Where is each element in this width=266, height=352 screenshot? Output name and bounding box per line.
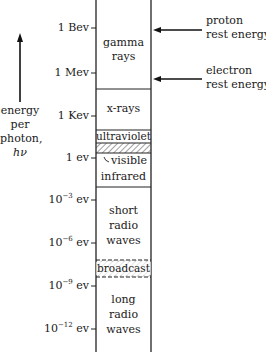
tick-1bev: 1 Bev bbox=[58, 21, 89, 34]
tick-1e-12: 10−12 ev bbox=[44, 322, 89, 335]
tick-1ev: 1 ev bbox=[66, 151, 89, 164]
annotation-line: rest energy bbox=[206, 78, 266, 92]
axis-label-line: per bbox=[0, 118, 40, 132]
band-label: waves bbox=[96, 322, 151, 337]
band-label: gamma bbox=[96, 36, 151, 50]
annotation-line: proton bbox=[206, 14, 266, 28]
tick-1e-3: 10−3 ev bbox=[48, 193, 89, 206]
band-label: short bbox=[96, 203, 151, 218]
band-label: broadcast bbox=[96, 262, 151, 275]
band-visible: visible bbox=[111, 154, 147, 167]
band-label: visible bbox=[111, 154, 147, 167]
annotation-proton-rest-energy: proton rest energy bbox=[206, 14, 266, 42]
tick-1e-9: 10−9 ev bbox=[48, 279, 89, 292]
tick-1mev: 1 Mev bbox=[55, 66, 89, 79]
band-label: waves bbox=[96, 233, 151, 248]
axis-label-line: hν bbox=[0, 146, 40, 160]
axis-label: energy per photon, hν bbox=[0, 104, 40, 160]
band-label: infrared bbox=[96, 170, 151, 183]
tick-1e-6: 10−6 ev bbox=[48, 236, 89, 249]
band-ultraviolet: ultraviolet bbox=[96, 130, 151, 143]
axis-label-line: photon, bbox=[0, 132, 40, 146]
band-x-rays: x-rays bbox=[96, 102, 151, 115]
band-long-radio-waves: long radio waves bbox=[96, 292, 151, 337]
annotation-line: rest energy bbox=[206, 28, 266, 42]
band-label: ultraviolet bbox=[96, 130, 151, 143]
axis-label-line: energy bbox=[0, 104, 40, 118]
annotation-line: electron bbox=[206, 64, 266, 78]
band-label: long bbox=[96, 292, 151, 307]
band-label: radio bbox=[96, 218, 151, 233]
band-label: radio bbox=[96, 307, 151, 322]
tick-1kev: 1 Kev bbox=[58, 109, 89, 122]
band-short-radio-waves: short radio waves bbox=[96, 203, 151, 248]
band-gamma-rays: gamma rays bbox=[96, 36, 151, 64]
band-label: x-rays bbox=[96, 102, 151, 115]
annotation-electron-rest-energy: electron rest energy bbox=[206, 64, 266, 92]
band-label: rays bbox=[96, 50, 151, 64]
band-broadcast: broadcast bbox=[96, 262, 151, 275]
band-infrared: infrared bbox=[96, 170, 151, 183]
